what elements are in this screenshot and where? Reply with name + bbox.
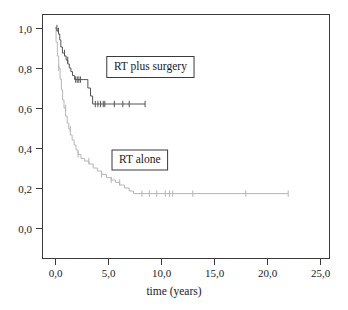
y-tick-label: 0,6 bbox=[18, 103, 32, 115]
series-label-text: RT alone bbox=[119, 153, 161, 165]
y-tick-label: 1,0 bbox=[18, 23, 32, 35]
y-tick-label: 0,8 bbox=[18, 63, 32, 75]
series-label-rt-plus-surgery: RT plus surgery bbox=[107, 57, 194, 78]
series-label-rt-alone: RT alone bbox=[112, 150, 168, 170]
x-tick-label: 25,0 bbox=[311, 267, 331, 279]
survival-curve-rt-alone bbox=[55, 28, 288, 194]
x-tick-label: 5,0 bbox=[102, 267, 116, 279]
censor-marks bbox=[57, 25, 288, 197]
survival-plot: 0,05,010,015,020,025,0 0,00,20,40,60,81,… bbox=[0, 0, 348, 310]
x-axis-title: time (years) bbox=[146, 285, 201, 298]
x-tick-label: 10,0 bbox=[152, 267, 172, 279]
y-tick-label: 0,0 bbox=[18, 223, 32, 235]
plot-frame bbox=[43, 15, 330, 259]
y-tick-label: 0,2 bbox=[18, 183, 32, 195]
x-axis-tick-labels: 0,05,010,015,020,025,0 bbox=[49, 267, 331, 279]
survival-curves bbox=[55, 28, 288, 194]
kaplan-meier-figure: 0,05,010,015,020,025,0 0,00,20,40,60,81,… bbox=[0, 0, 348, 310]
series-label-text: RT plus surgery bbox=[114, 60, 187, 73]
x-axis-ticks bbox=[56, 258, 321, 265]
series-annotations: RT plus surgeryRT alone bbox=[107, 57, 194, 171]
y-axis-tick-labels: 0,00,20,40,60,81,0 bbox=[18, 23, 32, 235]
y-tick-label: 0,4 bbox=[18, 143, 32, 155]
y-axis-ticks bbox=[36, 29, 43, 229]
x-tick-label: 0,0 bbox=[49, 267, 63, 279]
x-tick-label: 20,0 bbox=[258, 267, 278, 279]
x-tick-label: 15,0 bbox=[205, 267, 225, 279]
